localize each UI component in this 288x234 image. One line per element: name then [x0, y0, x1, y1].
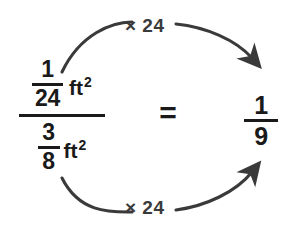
denominator-unit-text: ft [64, 139, 78, 162]
numerator-fraction-top: 1 [41, 58, 54, 82]
denominator-unit-exponent: 2 [79, 137, 87, 153]
complex-fraction-numerator: 1 24 ft2 [32, 58, 92, 113]
denominator-unit: ft2 [64, 138, 87, 161]
top-arrow-label: × 24 [125, 16, 165, 35]
bottom-arrow-label: × 24 [125, 198, 165, 217]
top-arc-right-segment [176, 24, 252, 58]
numerator-unit-exponent: 2 [84, 74, 92, 90]
result-fraction: 1 9 [244, 92, 278, 149]
result-fraction-bottom: 9 [254, 123, 268, 149]
denominator-fraction: 3 8 [38, 121, 60, 174]
denominator-fraction-top: 3 [42, 121, 55, 145]
math-diagram-canvas: × 24 1 24 ft2 3 8 ft2 = [0, 0, 288, 234]
denominator-fraction-bottom: 8 [42, 150, 55, 174]
numerator-fraction-bottom: 24 [35, 87, 60, 111]
complex-fraction: 1 24 ft2 3 8 ft2 [18, 58, 106, 174]
numerator-fraction: 1 24 [32, 58, 63, 111]
equals-sign: = [152, 98, 184, 128]
numerator-unit: ft2 [69, 75, 92, 98]
complex-fraction-denominator: 3 8 ft2 [38, 118, 87, 174]
result-fraction-stack: 1 9 [244, 92, 278, 149]
main-fraction-bar [19, 114, 105, 117]
result-fraction-top: 1 [254, 92, 268, 118]
bottom-arc-right-segment [176, 172, 252, 210]
numerator-unit-text: ft [69, 76, 83, 99]
bottom-arc-left-segment [62, 178, 132, 212]
